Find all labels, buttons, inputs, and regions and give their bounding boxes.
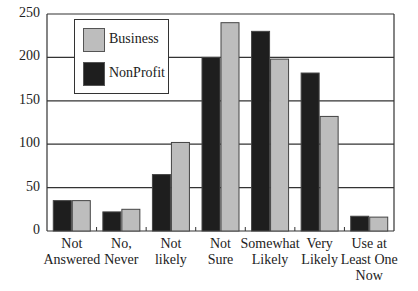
bar-business [221,23,239,231]
bar-nonprofit [152,175,170,231]
bar-nonprofit [53,201,71,231]
bar-business [271,59,289,231]
legend-swatch-nonprofit [83,62,105,86]
bar-business [122,209,140,231]
x-tick-label: Use at Least One Now [329,236,409,284]
legend: Business NonProfit [74,19,169,94]
bar-chart: 050100150200250 Not AnsweredNo, NeverNot… [0,0,418,291]
y-tick-label: 100 [4,135,40,151]
bar-business [320,116,338,231]
bar-nonprofit [301,73,319,231]
legend-swatch-business [83,28,105,52]
bar-business [171,142,189,231]
bar-business [370,217,388,231]
bar-nonprofit [351,216,369,231]
y-tick-label: 50 [4,179,40,195]
bar-nonprofit [202,57,220,231]
legend-label-nonprofit: NonProfit [109,65,165,81]
y-tick-label: 250 [4,5,40,21]
bar-nonprofit [103,212,121,231]
bar-nonprofit [252,31,270,231]
bar-business [72,201,90,231]
legend-label-business: Business [109,31,159,47]
y-tick-label: 150 [4,92,40,108]
y-tick-label: 200 [4,48,40,64]
